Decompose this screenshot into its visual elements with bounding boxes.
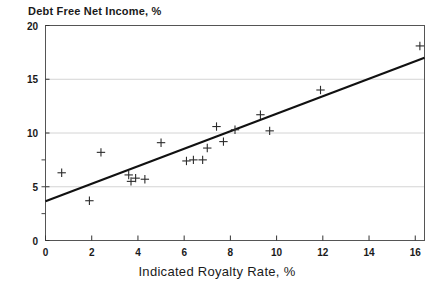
chart-title: Debt Free Net Income, % (28, 5, 162, 17)
data-point-marker (97, 148, 105, 156)
data-point-marker (157, 138, 165, 146)
x-tick-label: 0 (43, 247, 49, 258)
data-point-marker (85, 197, 93, 205)
data-point-marker (212, 122, 220, 130)
x-tick-label: 14 (363, 247, 374, 258)
data-point-marker (416, 42, 424, 50)
data-point-marker (189, 156, 197, 164)
y-tick-label: 15 (14, 74, 38, 85)
data-point-marker (316, 86, 324, 94)
data-points (57, 42, 424, 205)
x-axis-label: Indicated Royalty Rate, % (0, 264, 434, 279)
data-point-marker (141, 175, 149, 183)
x-tick-label: 12 (317, 247, 328, 258)
data-point-marker (265, 127, 273, 135)
data-point-marker (203, 144, 211, 152)
x-tick-label: 2 (89, 247, 95, 258)
data-point-marker (219, 137, 227, 145)
data-point-marker (57, 169, 65, 177)
y-tick-label: 0 (14, 235, 38, 246)
y-tick-label: 10 (14, 128, 38, 139)
data-point-marker (198, 156, 206, 164)
x-tick-label: 6 (181, 247, 187, 258)
x-tick-label: 16 (410, 247, 421, 258)
y-tick-label: 5 (14, 181, 38, 192)
x-tick-label: 4 (135, 247, 141, 258)
x-tick-label: 8 (228, 247, 234, 258)
data-point-marker (182, 157, 190, 165)
x-tick-label: 10 (271, 247, 282, 258)
y-tick-label: 20 (14, 20, 38, 31)
chart-figure: Debt Free Net Income, % 0510152002468101… (0, 0, 434, 290)
